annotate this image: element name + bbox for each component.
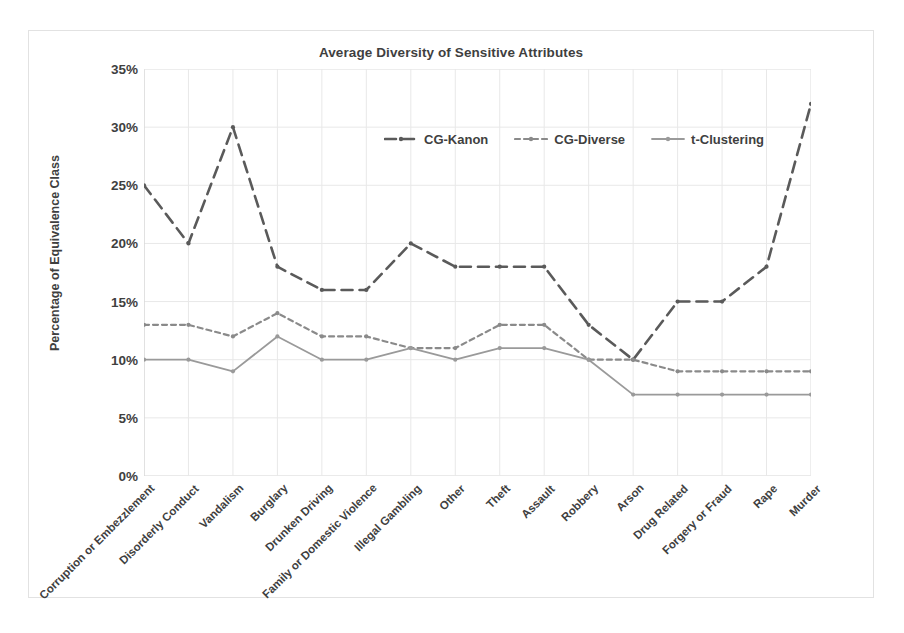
series-marker <box>764 369 768 373</box>
series-marker <box>676 369 680 373</box>
series-marker <box>275 334 279 338</box>
series-marker <box>542 346 546 350</box>
series-marker <box>320 288 324 292</box>
x-axis-tick-labels: Corruption or EmbezzlementDisorderly Con… <box>144 480 811 610</box>
series-marker <box>631 358 635 362</box>
y-axis-tick-label: 0% <box>82 469 138 484</box>
x-axis-tick-label: Robbery <box>559 482 600 523</box>
chart-frame: Average Diversity of Sensitive Attribute… <box>28 30 874 598</box>
series-marker <box>676 393 680 397</box>
series-marker <box>409 241 413 245</box>
series-marker <box>764 393 768 397</box>
series-marker <box>587 358 591 362</box>
series-marker <box>275 265 279 269</box>
series-marker <box>186 241 190 245</box>
y-axis-tick-label: 15% <box>82 294 138 309</box>
series-marker <box>720 369 724 373</box>
x-axis-tick-label: Arson <box>614 482 646 514</box>
series-marker <box>186 323 190 327</box>
series-marker <box>144 358 146 362</box>
series-marker <box>364 358 368 362</box>
series-marker <box>231 369 235 373</box>
legend-label: CG-Kanon <box>424 132 488 147</box>
series-marker <box>809 369 811 373</box>
series-marker <box>231 334 235 338</box>
series-marker <box>676 299 680 303</box>
x-axis-tick-label: Rape <box>751 482 779 510</box>
y-axis-tick-label: 35% <box>82 62 138 77</box>
series-marker <box>231 125 235 129</box>
series-marker <box>542 323 546 327</box>
series-marker <box>186 358 190 362</box>
legend-swatch-icon <box>651 133 685 145</box>
series-marker <box>498 265 502 269</box>
x-axis-tick-label: Burglary <box>248 482 290 524</box>
y-axis-title: Percentage of Equivalence Class <box>48 123 62 383</box>
series-line-t-clustering <box>144 336 811 394</box>
legend-label: t-Clustering <box>691 132 764 147</box>
legend-label: CG-Diverse <box>554 132 625 147</box>
series-marker <box>364 288 368 292</box>
series-marker <box>720 299 724 303</box>
y-axis-tick-label: 10% <box>82 352 138 367</box>
series-marker <box>275 311 279 315</box>
y-axis-tick-label: 20% <box>82 236 138 251</box>
series-marker <box>498 346 502 350</box>
chart-title: Average Diversity of Sensitive Attribute… <box>29 45 873 60</box>
series-marker <box>720 393 724 397</box>
x-axis-tick-label: Theft <box>484 482 512 510</box>
legend-item-cg-diverse[interactable]: CG-Diverse <box>514 132 625 147</box>
y-axis-tick-label: 5% <box>82 410 138 425</box>
series-marker <box>587 323 591 327</box>
x-axis-tick-label: Disorderly Conduct <box>117 482 201 566</box>
series-marker <box>542 265 546 269</box>
series-marker <box>764 265 768 269</box>
series-marker <box>809 393 811 397</box>
series-marker <box>453 265 457 269</box>
x-axis-tick-label: Vandalism <box>197 482 246 531</box>
legend-item-cg-kanon[interactable]: CG-Kanon <box>384 132 488 147</box>
series-marker <box>364 334 368 338</box>
legend-item-t-clustering[interactable]: t-Clustering <box>651 132 764 147</box>
x-axis-tick-label: Other <box>437 482 467 512</box>
series-marker <box>409 346 413 350</box>
series-marker <box>453 346 457 350</box>
series-marker <box>809 102 811 106</box>
legend-swatch-icon <box>514 133 548 145</box>
series-marker <box>631 393 635 397</box>
series-marker <box>498 323 502 327</box>
y-axis-tick-label: 25% <box>82 178 138 193</box>
series-marker <box>320 334 324 338</box>
y-axis-tick-label: 30% <box>82 120 138 135</box>
series-marker <box>453 358 457 362</box>
x-axis-tick-label: Murder <box>787 482 823 518</box>
series-marker <box>144 323 146 327</box>
y-axis-tick-labels: 0%5%10%15%20%25%30%35% <box>76 69 138 476</box>
x-axis-tick-label: Assault <box>519 482 557 520</box>
series-marker <box>320 358 324 362</box>
chart-legend: CG-KanonCG-Diverset-Clustering <box>384 127 764 151</box>
legend-swatch-icon <box>384 133 418 145</box>
